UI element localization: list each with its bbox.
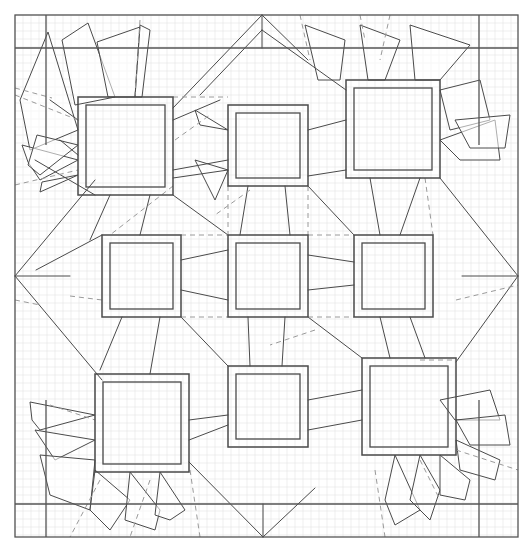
crease-line xyxy=(189,462,263,537)
square-outer xyxy=(346,80,440,178)
square-top-center xyxy=(228,105,308,186)
crease-line xyxy=(262,15,308,60)
square-outer xyxy=(78,97,173,195)
square-top-right xyxy=(346,80,440,178)
dashed-fold-line xyxy=(70,296,102,300)
flap xyxy=(456,415,510,445)
crease-pattern-diagram xyxy=(0,0,532,550)
square-top-left xyxy=(78,97,173,195)
crease-line xyxy=(189,415,228,420)
crease-line xyxy=(308,186,354,235)
square-outer xyxy=(362,358,456,455)
crease-line xyxy=(400,178,420,235)
crease-line xyxy=(380,317,390,358)
square-bottom-center xyxy=(228,366,308,447)
square-middle-center xyxy=(228,235,308,317)
crease-line xyxy=(189,425,228,440)
square-outer xyxy=(228,366,308,447)
dashed-fold-line xyxy=(215,190,250,215)
crease-line xyxy=(173,15,262,108)
square-outer xyxy=(354,235,433,317)
crease-line xyxy=(150,317,160,374)
crease-line xyxy=(308,255,354,262)
flap xyxy=(30,402,95,430)
crease-line xyxy=(285,186,290,235)
flap xyxy=(40,455,95,510)
square-bottom-right xyxy=(362,358,456,455)
square-bottom-left xyxy=(95,374,189,472)
crease-line xyxy=(15,276,102,380)
dashed-fold-line xyxy=(425,178,433,235)
square-outer xyxy=(102,235,181,317)
square-middle-left xyxy=(102,235,181,317)
square-flaps xyxy=(78,80,456,472)
crease-line xyxy=(90,195,110,240)
flap xyxy=(360,25,400,80)
square-outer xyxy=(95,374,189,472)
square-outer xyxy=(228,105,308,186)
crease-line xyxy=(36,235,102,270)
crease-line xyxy=(282,317,285,366)
flap xyxy=(410,25,470,80)
square-outer xyxy=(228,235,308,317)
crease-line xyxy=(248,317,250,366)
crease-line xyxy=(181,317,228,366)
crease-line xyxy=(308,285,354,290)
square-middle-right xyxy=(354,235,433,317)
